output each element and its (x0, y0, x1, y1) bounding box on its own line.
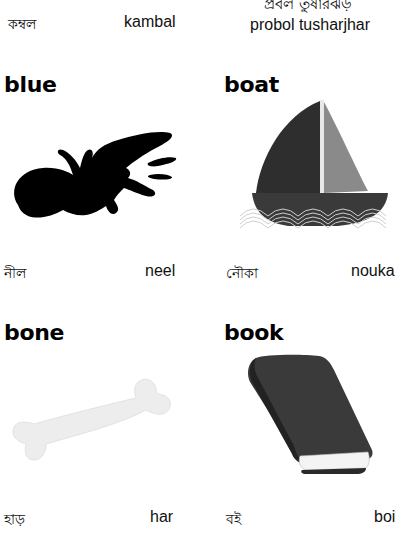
translit-word: har (150, 508, 173, 526)
bengali-word: নীল (4, 262, 26, 286)
translit-word-blizzard: probol tusharjhar (250, 16, 370, 34)
bengali-word-blizzard: প্রবল তুষারঝড় (264, 0, 352, 17)
bone-icon (10, 372, 175, 472)
book-icon (244, 352, 379, 477)
translit-word: boi (374, 508, 395, 526)
sailboat-icon (238, 98, 388, 233)
bengali-word: হাড় (4, 508, 25, 532)
english-word: book (224, 320, 283, 345)
translit-word: neel (145, 262, 175, 280)
english-word: bone (4, 320, 64, 345)
bengali-word: নৌকা (226, 262, 258, 286)
english-word: boat (224, 72, 279, 97)
translit-word: nouka (351, 262, 395, 280)
translit-word-blanket: kambal (124, 13, 176, 31)
bengali-word-blanket: কম্বল (8, 13, 36, 37)
bengali-word: বই (226, 508, 241, 532)
english-word: blue (4, 72, 57, 97)
ink-splat-icon (8, 130, 178, 225)
